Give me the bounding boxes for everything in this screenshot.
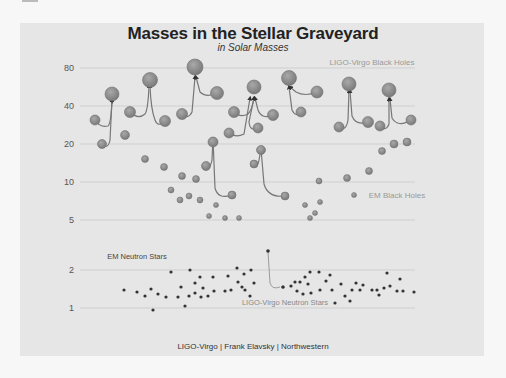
y-tick-10: 10 xyxy=(64,177,74,187)
gridlines xyxy=(80,68,415,308)
label-ligo-black-holes: LIGO-Virgo Black Holes xyxy=(330,58,415,67)
y-tick-80: 80 xyxy=(64,63,74,73)
credit-footer: LIGO-Virgo | Frank Elavsky | Northwester… xyxy=(0,342,506,351)
y-tick-1: 1 xyxy=(69,303,74,313)
y-tick-20: 20 xyxy=(64,139,74,149)
label-em-neutron-stars: EM Neutron Stars xyxy=(107,252,167,261)
y-tick-40: 40 xyxy=(64,101,74,111)
ligo-neutron-stars xyxy=(266,249,284,288)
chart-title: Masses in the Stellar Graveyard xyxy=(0,24,506,44)
y-tick-5: 5 xyxy=(69,215,74,225)
label-ligo-neutron-stars: LIGO-Virgo Neutron Stars xyxy=(242,298,328,307)
chart-plot: 80 40 20 10 5 2 1 xyxy=(0,0,506,378)
chart-subtitle: in Solar Masses xyxy=(0,42,506,53)
label-em-black-holes: EM Black Holes xyxy=(369,191,425,200)
merger-arrows xyxy=(95,77,411,196)
y-tick-2: 2 xyxy=(69,265,74,275)
ligo-black-holes xyxy=(90,59,416,200)
y-axis-labels: 80 40 20 10 5 2 1 xyxy=(64,63,74,313)
